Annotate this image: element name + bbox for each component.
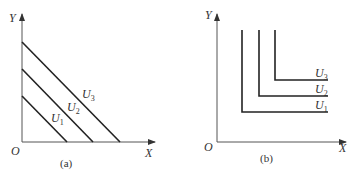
label-u1: U1 [315,98,328,114]
curve-u3 [22,42,120,142]
origin-label: O [204,140,213,154]
curve-u2 [22,69,93,142]
y-axis-label: Y [205,8,213,22]
panel-b: Y X O U1 U2 U3 (b) [204,8,347,165]
caption-a: (a) [60,157,73,170]
label-u2: U2 [67,100,80,116]
y-axis-label: Y [9,11,17,25]
label-u3: U3 [315,66,328,82]
label-u3: U3 [82,87,95,103]
x-axis-label: X [144,146,153,160]
label-u1: U1 [51,111,64,127]
panel-a: Y X O U1 U2 U3 (a) [9,11,155,170]
origin-label: O [11,144,20,158]
caption-b: (b) [260,152,273,165]
indifference-curves-figure: Y X O U1 U2 U3 (a) Y X O U1 U2 U3 (b) [0,0,354,178]
x-axis-label: X [338,141,347,155]
label-u2: U2 [315,82,328,98]
